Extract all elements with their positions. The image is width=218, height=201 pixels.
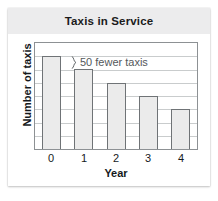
bar — [171, 109, 190, 149]
chart-title: Taxis in Service — [65, 15, 154, 27]
x-tick-label: 0 — [41, 152, 61, 164]
annotation-label: 50 fewer taxis — [80, 56, 148, 69]
chart-card: Taxis in Service Number of taxis 50 fewe… — [8, 8, 210, 186]
x-axis-ticks: 01234 — [34, 152, 198, 168]
x-axis-label: Year — [34, 167, 198, 179]
annotation-fifty-fewer-taxis: 50 fewer taxis — [71, 56, 148, 69]
x-tick-label: 3 — [138, 152, 158, 164]
y-axis-label: Number of taxis — [20, 35, 34, 135]
x-tick-label: 1 — [74, 152, 94, 164]
brace-icon — [71, 56, 77, 69]
bar — [74, 69, 93, 149]
chart-body: Number of taxis 50 fewer taxis 01234 Yea… — [8, 34, 210, 186]
x-tick-label: 2 — [106, 152, 126, 164]
bar — [139, 96, 158, 149]
chart-title-band: Taxis in Service — [8, 8, 210, 34]
bar — [42, 56, 61, 149]
x-tick-label: 4 — [171, 152, 191, 164]
bar — [107, 83, 126, 149]
plot-area: 50 fewer taxis — [34, 42, 198, 150]
